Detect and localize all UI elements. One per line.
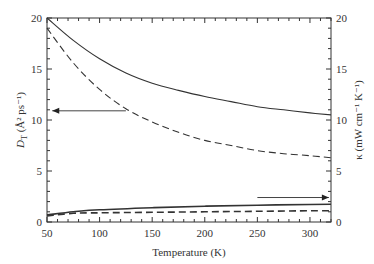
left-y-tick-label: 0: [37, 216, 43, 228]
x-axis-title: Temperature (K): [152, 246, 226, 259]
annotation-arrows: [52, 108, 329, 201]
x-tick-label: 300: [302, 227, 319, 239]
series-line-2: [47, 204, 331, 215]
plot-frame: [47, 18, 331, 222]
left-y-tick-label: 5: [37, 165, 43, 177]
x-tick-label: 200: [197, 227, 214, 239]
right-y-tick-label: 5: [336, 165, 342, 177]
svg-text:DT (Å² ps⁻¹): DT (Å² ps⁻¹): [14, 92, 29, 149]
chart: 501001502002503000510152005101520 Temper…: [0, 0, 374, 264]
arrow-left-icon: [52, 108, 59, 114]
x-tick-label: 150: [144, 227, 161, 239]
series-line-3: [47, 211, 331, 216]
data-series: [47, 18, 331, 216]
right-y-tick-label: 0: [336, 216, 342, 228]
left-y-tick-label: 20: [31, 12, 43, 24]
left-y-tick-label: 10: [31, 114, 43, 126]
right-y-tick-label: 10: [336, 114, 348, 126]
axis-ticks: [47, 18, 331, 222]
right-y-tick-label: 15: [336, 63, 348, 75]
left-axis-title: DT (Å² ps⁻¹): [14, 92, 29, 149]
series-line-0: [47, 18, 331, 115]
svg-text:κ (mW cm⁻¹ K⁻¹): κ (mW cm⁻¹ K⁻¹): [352, 80, 365, 160]
arrow-right-icon: [322, 195, 329, 201]
right-axis-title: κ (mW cm⁻¹ K⁻¹): [352, 80, 365, 160]
x-tick-label: 50: [42, 227, 54, 239]
left-y-tick-label: 15: [31, 63, 43, 75]
x-tick-label: 100: [91, 227, 108, 239]
right-y-tick-label: 20: [336, 12, 348, 24]
x-tick-label: 250: [249, 227, 266, 239]
